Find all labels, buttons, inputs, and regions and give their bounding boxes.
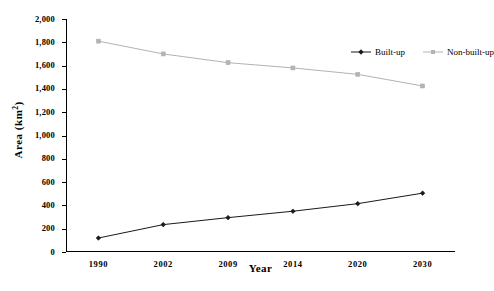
- series-built-up: [96, 191, 425, 240]
- plot-area: 02004006008001,0001,2001,4001,6001,8002,…: [66, 19, 455, 252]
- x-axis-title: Year: [66, 262, 455, 274]
- y-tick-label: 0: [9, 248, 55, 257]
- data-point-marker: [161, 52, 165, 56]
- data-point-marker: [355, 201, 360, 206]
- data-point-marker: [291, 66, 295, 70]
- data-point-marker: [420, 191, 425, 196]
- data-point-marker: [356, 72, 360, 76]
- y-axis-title-close: ): [13, 101, 25, 105]
- data-point-marker: [96, 39, 100, 43]
- y-tick-mark: [62, 252, 66, 253]
- series-line: [98, 193, 422, 238]
- y-tick-label: 1,000: [9, 131, 55, 140]
- chart-legend: Built-upNon-built-up: [351, 47, 494, 57]
- legend-item-built-up[interactable]: Built-up: [351, 47, 405, 57]
- legend-marker-icon: [351, 48, 371, 56]
- y-tick-label: 2,000: [9, 15, 55, 24]
- y-tick-label: 1,200: [9, 108, 55, 117]
- data-point-marker: [96, 236, 101, 241]
- y-tick-label: 800: [9, 154, 55, 163]
- legend-marker-icon: [423, 48, 443, 56]
- data-point-marker: [291, 209, 296, 214]
- data-point-marker: [226, 61, 230, 65]
- data-point-marker: [226, 215, 231, 220]
- y-tick-label: 1,800: [9, 38, 55, 47]
- y-tick-label: 400: [9, 201, 55, 210]
- legend-item-label: Built-up: [375, 47, 405, 57]
- y-tick-label: 1,400: [9, 84, 55, 93]
- y-tick-label: 200: [9, 224, 55, 233]
- legend-item-non-built-up[interactable]: Non-built-up: [423, 47, 494, 57]
- y-tick-label: 600: [9, 178, 55, 187]
- data-point-marker: [421, 84, 425, 88]
- legend-item-label: Non-built-up: [447, 47, 494, 57]
- y-tick-label: 1,600: [9, 61, 55, 70]
- data-point-marker: [161, 222, 166, 227]
